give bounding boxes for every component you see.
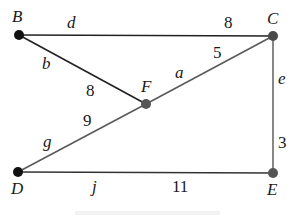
- edge-name-b: b: [42, 54, 51, 73]
- edge-weight-e: 3: [278, 133, 287, 152]
- node-label-b: B: [12, 7, 23, 26]
- node-label-e: E: [266, 180, 278, 199]
- edge-name-g: g: [43, 132, 52, 151]
- edge-b-c: [19, 35, 273, 36]
- node-f: [141, 99, 151, 109]
- node-e: [268, 168, 278, 178]
- edge-name-e: e: [278, 69, 286, 88]
- edge-b-f: [19, 35, 146, 104]
- scan-artifact: [75, 211, 220, 215]
- weighted-graph-diagram: d8b8a5e3g9j11 BCFDE: [0, 0, 291, 218]
- nodes-layer: [13, 30, 278, 178]
- node-label-f: F: [140, 77, 152, 96]
- node-b: [14, 30, 24, 40]
- edge-f-c: [146, 36, 273, 104]
- node-c: [268, 31, 278, 41]
- node-label-c: C: [267, 9, 279, 28]
- edge-d-e: [18, 172, 273, 173]
- edge-weight-d: 8: [224, 13, 233, 32]
- node-label-d: D: [10, 179, 24, 198]
- edge-name-j: j: [90, 177, 97, 196]
- edge-weight-a: 5: [213, 43, 222, 62]
- edge-weight-j: 11: [172, 177, 188, 196]
- node-d: [13, 167, 23, 177]
- edge-weight-b: 8: [86, 81, 95, 100]
- edge-d-f: [18, 104, 146, 172]
- edge-name-d: d: [67, 13, 76, 32]
- edge-name-a: a: [175, 63, 184, 82]
- edge-weight-g: 9: [83, 111, 92, 130]
- edge-labels-layer: d8b8a5e3g9j11: [42, 13, 287, 196]
